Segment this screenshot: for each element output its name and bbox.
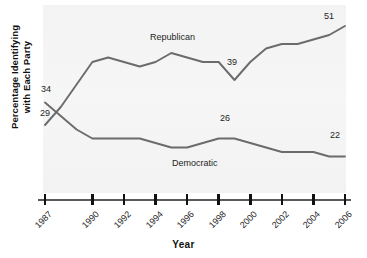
- x-tick-1990: [91, 194, 94, 205]
- point-value-democratic-1987: 34: [41, 84, 51, 94]
- series-label-republican: Republican: [150, 32, 195, 42]
- point-value-democratic-2006: 22: [330, 130, 340, 140]
- point-value-democratic-1999: 26: [220, 113, 230, 123]
- series-label-democratic: Democratic: [172, 158, 218, 168]
- x-tick-2002: [281, 194, 284, 205]
- chart-figure: Percentage Identifying with Each Party R…: [0, 0, 367, 258]
- x-tick-1994: [154, 194, 157, 205]
- x-axis-title: Year: [0, 239, 367, 250]
- x-tick-1998: [217, 194, 220, 205]
- point-value-republican-1999: 39: [227, 57, 237, 67]
- x-tick-2000: [249, 194, 252, 205]
- x-axis-line: [38, 199, 351, 201]
- x-tick-1992: [123, 194, 126, 205]
- x-tick-1987: [44, 194, 47, 205]
- x-tick-2004: [312, 194, 315, 205]
- point-value-republican-1987: 29: [40, 108, 50, 118]
- line-democratic: [45, 103, 345, 157]
- x-tick-1996: [186, 194, 189, 205]
- point-value-republican-2006: 51: [324, 11, 334, 21]
- x-tick-2006: [344, 194, 347, 205]
